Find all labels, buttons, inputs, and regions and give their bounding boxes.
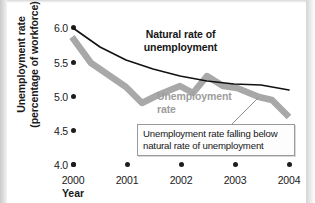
series-label-unemployment-rate-line-2: rate xyxy=(157,103,176,115)
series-label-natural-rate-line-2: unemployment xyxy=(144,41,217,53)
series-label-unemployment-rate: Unemployment rate xyxy=(157,90,257,115)
plot-area: Unemployment rate (percentage of workfor… xyxy=(0,0,315,203)
callout-annotation-box: Unemployment rate falling below natural … xyxy=(137,124,295,156)
chart-figure: Unemployment rate (percentage of workfor… xyxy=(0,0,315,203)
series-label-natural-rate-line-1: Natural rate of xyxy=(146,28,216,40)
series-label-unemployment-rate-line-1: Unemployment xyxy=(157,90,232,102)
callout-text-line-2: natural rate of unemployment xyxy=(143,140,264,151)
series-label-natural-rate: Natural rate of unemployment xyxy=(128,28,233,53)
callout-text-line-1: Unemployment rate falling below xyxy=(143,128,278,139)
